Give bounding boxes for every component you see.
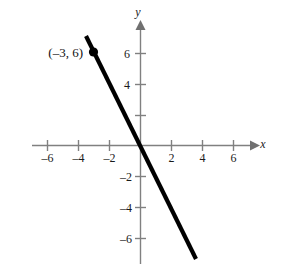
y-tick-label-minus-6: –6: [119, 232, 132, 246]
y-tick-label-minus-2: –2: [119, 170, 132, 184]
y-tick-label-6: 6: [124, 47, 130, 61]
y-axis-label: y: [134, 5, 141, 19]
y-axis-arrow-icon: [136, 20, 146, 30]
plotted-point-marker: [89, 47, 98, 56]
x-tick-label-minus-6: –6: [41, 151, 54, 165]
x-axis-arrow-icon: [250, 141, 260, 151]
graph-figure: –6 –4 –2 2 4 6 6 4 –2 –4 –6 x y (–3, 6): [0, 0, 289, 274]
x-tick-label-2: 2: [169, 151, 175, 165]
point-annotation-label: (–3, 6): [48, 45, 83, 60]
x-tick-label-4: 4: [200, 151, 206, 165]
x-axis-label: x: [259, 137, 266, 151]
x-tick-label-minus-2: –2: [103, 151, 116, 165]
x-tick-label-6: 6: [231, 151, 237, 165]
y-tick-label-4: 4: [124, 78, 130, 92]
x-tick-label-minus-4: –4: [72, 151, 85, 165]
coordinate-plane: –6 –4 –2 2 4 6 6 4 –2 –4 –6 x y (–3, 6): [0, 0, 289, 274]
y-tick-label-minus-4: –4: [119, 201, 132, 215]
